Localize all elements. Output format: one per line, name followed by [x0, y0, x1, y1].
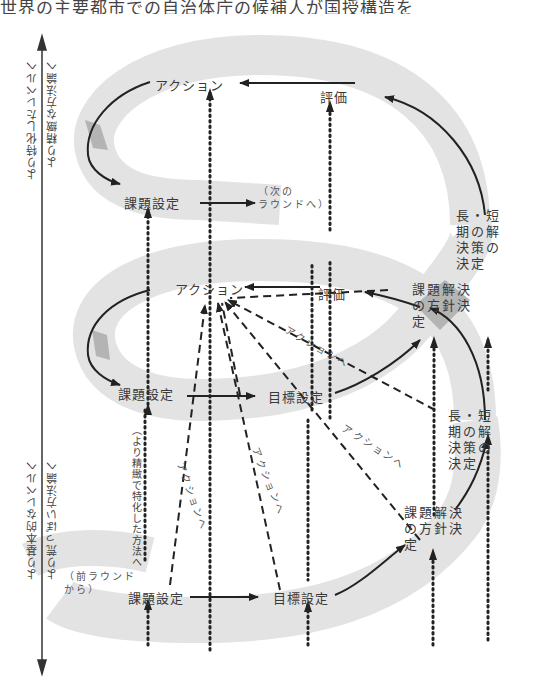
top-long-short-policy-label: 長・短期の解決策の決定 — [456, 208, 506, 272]
axis-down-label-2: より荒っぽい方法論へ — [46, 460, 60, 580]
bottom-policy-decision-label: 課題解決の方針決定 — [404, 505, 464, 553]
mid-goal-setting-label: 目標設定 — [268, 387, 324, 406]
top-action-label: アクション — [155, 75, 224, 94]
bottom-problem-setting-label: 課題設定 — [128, 588, 184, 607]
mid-evaluation-label: 評価 — [318, 284, 346, 303]
top-problem-setting-label: 課題設定 — [124, 193, 180, 212]
axis-up-label-1: より特化したレベルへ — [26, 60, 40, 180]
mid-policy-decision-label: 課題解決の方針決定 — [412, 282, 472, 330]
bottom-goal-setting-label: 目標設定 — [273, 588, 329, 607]
mid-action-label: アクション — [175, 279, 244, 298]
bottom-from-prev-round-label: （前ラウンド から） — [64, 570, 136, 596]
top-next-round-label: （次の ラウンドへ） — [258, 185, 330, 211]
mid-problem-setting-label: 課題設定 — [118, 384, 174, 403]
bottom-refine-note-label: （より精緻で特化した方法へ — [128, 425, 142, 568]
axis-down-label-1: より基本的なレベルへ — [26, 460, 40, 580]
mid-long-short-policy-label: 長・短期の解決策の決定 — [448, 408, 498, 472]
top-evaluation-label: 評価 — [320, 87, 348, 106]
axis-up-label-2: より精緻な方法論へ — [46, 60, 60, 168]
